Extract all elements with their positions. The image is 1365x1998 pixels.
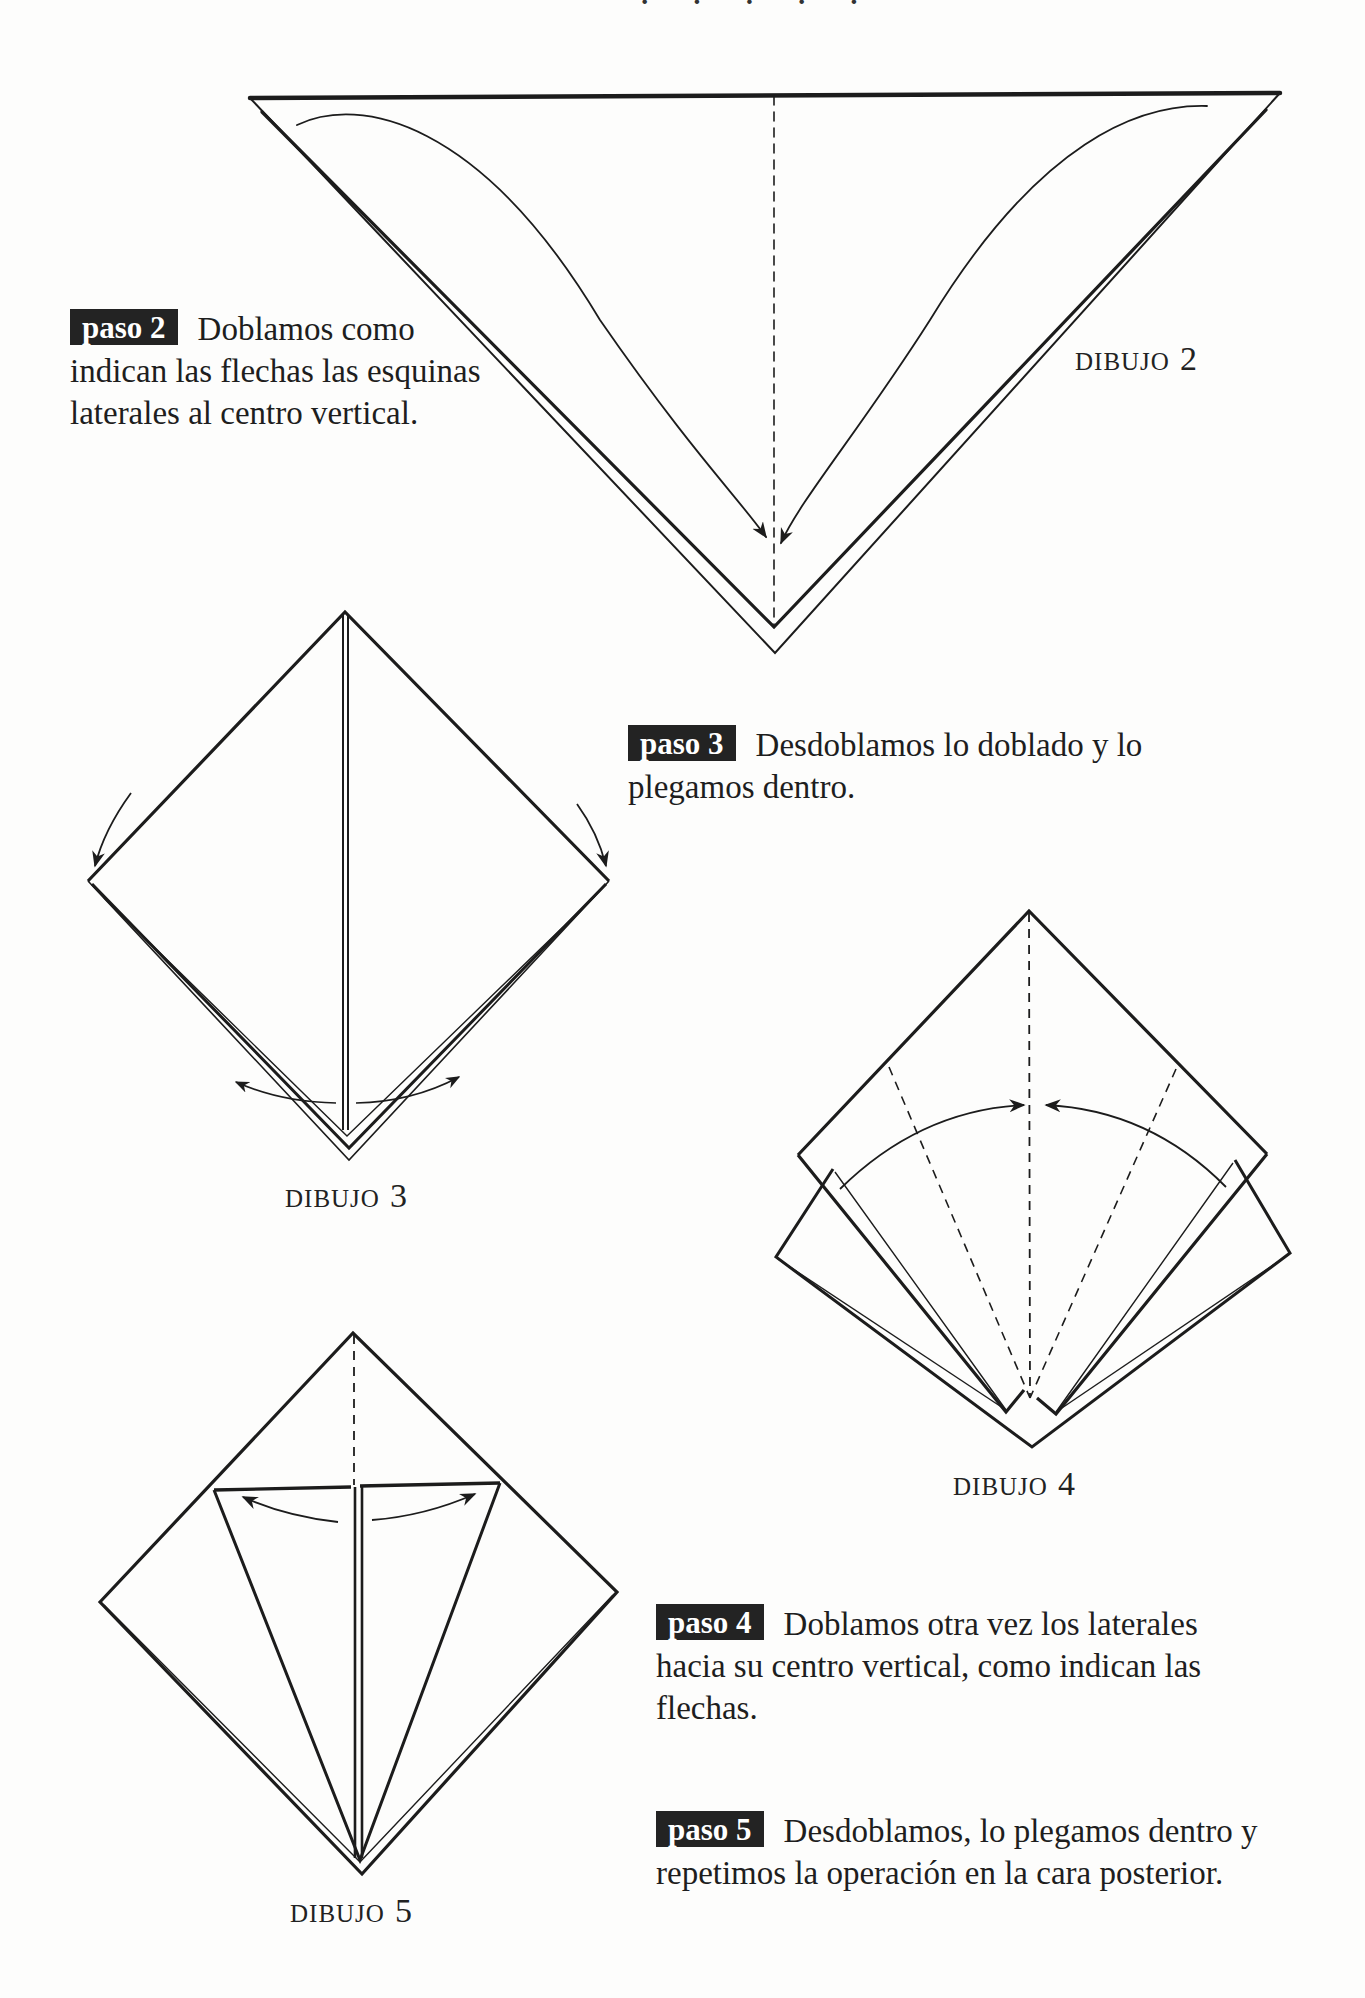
step-3-instruction: paso 3Desdoblamos lo doblado y lo plegam…: [628, 724, 1188, 808]
step-text-line: Doblamos otra vez los laterales: [784, 1606, 1198, 1642]
step-badge: paso 3: [628, 725, 736, 761]
drawing-3: [88, 612, 609, 1160]
step-text-line: Doblamos como: [198, 311, 415, 347]
step-text-line: flechas.: [656, 1690, 758, 1726]
step-4-instruction: paso 4Doblamos otra vez los laterales ha…: [656, 1603, 1296, 1729]
figure-caption-3: DIBUJO3: [285, 1177, 407, 1215]
step-text-line: laterales al centro vertical.: [70, 395, 418, 431]
step-text-line: indican las flechas las esquinas: [70, 353, 481, 389]
figure-caption-4: DIBUJO4: [953, 1465, 1075, 1503]
step-text-line: Desdoblamos lo doblado y lo: [756, 727, 1143, 763]
book-page: · · · · ·: [0, 0, 1365, 1998]
figure-caption-5: DIBUJO5: [290, 1892, 412, 1930]
step-badge: paso 5: [656, 1811, 764, 1847]
step-text-line: plegamos dentro.: [628, 769, 855, 805]
step-text-line: Desdoblamos, lo plegamos dentro y: [784, 1813, 1258, 1849]
step-text-line: repetimos la operación en la cara poster…: [656, 1855, 1223, 1891]
step-5-instruction: paso 5Desdoblamos, lo plegamos dentro y …: [656, 1810, 1336, 1894]
drawing-5: [100, 1333, 617, 1874]
step-badge: paso 2: [70, 309, 178, 345]
figure-caption-2: DIBUJO2: [1075, 340, 1197, 378]
step-2-instruction: paso 2Doblamos como indican las flechas …: [70, 308, 510, 434]
step-badge: paso 4: [656, 1604, 764, 1640]
drawing-4: [776, 911, 1290, 1447]
step-text-line: hacia su centro vertical, como indican l…: [656, 1648, 1201, 1684]
